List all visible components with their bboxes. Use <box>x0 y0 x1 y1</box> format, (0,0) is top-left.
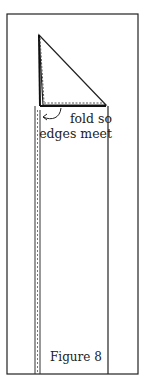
annotation-line-2: edges meet <box>39 128 112 141</box>
fold-annotation: fold so edges meet <box>60 113 112 145</box>
curved-arrow-icon <box>43 108 61 120</box>
annotation-line-1: fold so <box>70 113 112 126</box>
outer-frame <box>7 14 138 374</box>
flap-left-fold <box>39 35 40 106</box>
figure-caption: Figure 8 <box>50 351 102 363</box>
folded-triangle-flap <box>39 35 106 105</box>
folding-diagram <box>0 0 145 387</box>
